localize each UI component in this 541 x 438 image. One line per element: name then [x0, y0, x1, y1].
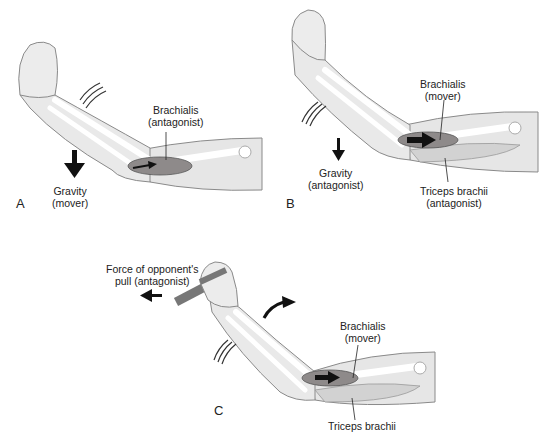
- label-gravity-b: Gravity (antagonist): [308, 167, 363, 191]
- label-triceps-c: Triceps brachii: [328, 420, 396, 432]
- panel-letter-b: B: [286, 196, 295, 211]
- panel-letter-c: C: [214, 403, 223, 418]
- gravity-down-arrow-icon: [332, 138, 345, 161]
- panel-b: Brachialis (mover) Gravity (antagonist) …: [270, 0, 541, 220]
- left-arrow-icon: [140, 289, 162, 302]
- motion-lines-icon: [80, 83, 106, 108]
- panel-a: Brachialis (antagonist) Gravity (mover) …: [0, 0, 270, 220]
- gravity-down-arrow-icon: [64, 150, 85, 178]
- curved-arrow-icon: [264, 296, 296, 318]
- label-force-of-opponent: Force of opponent's pull (antagonist): [106, 263, 198, 287]
- label-gravity-a: Gravity (mover): [52, 185, 88, 209]
- label-brachialis-b: Brachialis (mover): [420, 78, 466, 102]
- label-triceps-b: Triceps brachii (antagonist): [420, 185, 488, 209]
- motion-lines-icon: [302, 102, 326, 126]
- panel-c: Force of opponent's pull (antagonist) Br…: [100, 240, 541, 438]
- label-brachialis-a: Brachialis (antagonist): [148, 104, 203, 128]
- arm-illustration-a: [0, 0, 270, 220]
- panel-letter-a: A: [16, 196, 25, 211]
- motion-lines-icon: [214, 340, 236, 364]
- label-brachialis-c: Brachialis (mover): [340, 320, 386, 344]
